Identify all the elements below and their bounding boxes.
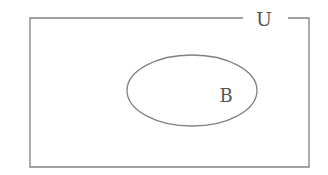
universe-label: U: [256, 8, 272, 30]
venn-diagram: U B: [0, 0, 328, 175]
universe-rectangle: [30, 18, 309, 167]
set-b-ellipse: [127, 55, 257, 126]
set-b-label: B: [219, 85, 232, 106]
venn-svg: U B: [0, 0, 328, 175]
